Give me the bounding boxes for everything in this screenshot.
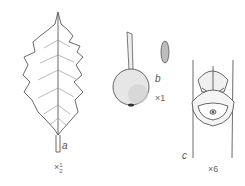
- scale-fraction: 12: [59, 162, 62, 174]
- panel-a-scale: ×12: [54, 162, 63, 174]
- panel-b-label: b: [155, 73, 161, 84]
- bud-on-stem-illustration: [192, 60, 234, 158]
- berry-illustration: [113, 32, 149, 107]
- panel-c-scale: ×6: [208, 164, 218, 174]
- panel-b-scale: ×1: [155, 93, 165, 103]
- botanical-figure: a ×12 b ×1 c ×6: [0, 0, 245, 186]
- seed-illustration: [161, 41, 169, 63]
- holly-leaf-illustration: [23, 12, 83, 152]
- panel-c-label: c: [182, 150, 187, 161]
- fraction-denominator: 2: [59, 168, 62, 174]
- panel-a-label: a: [62, 140, 68, 151]
